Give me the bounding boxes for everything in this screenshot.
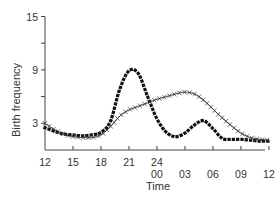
birth-frequency-chart: 391512151821240003060912 Birth frequency… [0, 0, 280, 202]
x-tick-label: 00 [151, 168, 163, 180]
x-tick-label: 12 [39, 156, 51, 168]
x-axis-title: Time [146, 180, 170, 192]
x-tick-label: 09 [235, 168, 247, 180]
series-layer [43, 69, 269, 142]
y-tick-label: 9 [32, 64, 38, 76]
y-tick-label: 3 [32, 117, 38, 129]
x-tick-label: 24 [151, 156, 163, 168]
y-tick-label: 15 [26, 11, 38, 23]
x-tick-label: 12 [263, 168, 275, 180]
x-tick-label: 15 [67, 156, 79, 168]
x-tick-label: 18 [95, 156, 107, 168]
axes: 391512151821240003060912 [26, 11, 275, 181]
x-tick-label: 21 [123, 156, 135, 168]
series-dotted-line [45, 69, 269, 141]
x-tick-label: 06 [207, 168, 219, 180]
x-tick-label: 03 [179, 168, 191, 180]
y-axis-title: Birth frequency [10, 63, 22, 137]
